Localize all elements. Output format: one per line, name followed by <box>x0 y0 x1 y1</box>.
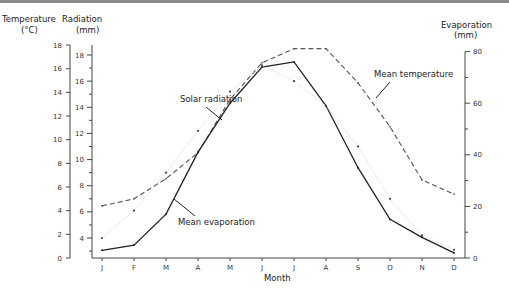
radiation-tick-label: 16 <box>75 78 84 86</box>
radiation-tick-label: 18 <box>75 52 84 60</box>
mean-temperature-point <box>101 205 103 207</box>
mean-temperature-point <box>453 193 455 195</box>
evaporation-tick-label: 0 <box>473 255 477 263</box>
x-tick-label: F <box>132 264 136 272</box>
temperature-tick-label: 14 <box>53 89 62 97</box>
climate-chart: Temperature (°C) Radiation (mm) Evaporat… <box>0 0 509 293</box>
evaporation-tick-label: 20 <box>473 203 482 211</box>
x-tick-label: O <box>387 264 393 272</box>
mean-evaporation-line <box>102 62 454 253</box>
evaporation-axis-title: Evaporation <box>441 20 492 30</box>
evaporation-axis-unit: (mm) <box>454 30 477 40</box>
mean-temperature-point <box>421 179 423 181</box>
mean-temperature-point <box>325 48 327 50</box>
temperature-axis-title: Temperature <box>1 14 56 24</box>
radiation-tick-label: 12 <box>75 130 84 138</box>
solar-radiation-point <box>389 198 391 200</box>
solar-radiation-line <box>102 66 454 250</box>
radiation-axis-title: Radiation <box>62 14 102 24</box>
mean-evaporation-point <box>165 213 167 215</box>
solar-radiation-point <box>165 172 167 174</box>
x-tick-label: A <box>324 264 329 272</box>
temperature-tick-label: 16 <box>53 65 62 73</box>
mean-evaporation-point <box>101 249 103 251</box>
x-tick-label: A <box>196 264 201 272</box>
x-tick-label: M <box>227 264 233 272</box>
x-tick-label: J <box>292 264 295 272</box>
mean-temperature-point <box>293 48 295 50</box>
mean-temperature-point <box>357 82 359 84</box>
evaporation-tick-label: 60 <box>473 100 482 108</box>
solar-radiation-point <box>453 249 455 251</box>
temperature-tick-label: 12 <box>53 113 62 121</box>
solar-radiation-point <box>197 130 199 132</box>
temperature-tick-label: 10 <box>53 136 62 144</box>
radiation-tick-label: 14 <box>75 104 84 112</box>
mean-temperature-point <box>165 178 167 180</box>
x-tick-label: S <box>356 264 361 272</box>
mean-evaporation-point <box>293 61 295 63</box>
mean-evaporation-point <box>133 244 135 246</box>
radiation-tick-label: 6 <box>80 208 85 216</box>
temperature-tick-label: 4 <box>58 207 63 215</box>
mean-temperature-point <box>389 126 391 128</box>
mean-temperature-point <box>261 62 263 64</box>
x-tick-label: M <box>163 264 169 272</box>
mean-evaporation-point <box>389 218 391 220</box>
temperature-tick-label: 18 <box>53 42 62 50</box>
solar-radiation-point <box>101 237 103 239</box>
radiation-axis-unit: (mm) <box>76 25 99 35</box>
temperature-tick-label: 2 <box>58 231 62 239</box>
mean-evaporation-point <box>453 252 455 254</box>
mean-evaporation-point <box>357 167 359 169</box>
annotation-mean-evaporation: Mean evaporation <box>178 217 255 227</box>
solar-radiation-point <box>421 234 423 236</box>
x-tick-label: J <box>260 264 263 272</box>
temperature-tick-label: 6 <box>58 184 63 192</box>
evaporation-tick-label: 80 <box>473 48 482 56</box>
annotation-mean-temperature-leader <box>376 82 390 98</box>
radiation-tick-label: 4 <box>80 235 85 243</box>
mean-evaporation-point <box>197 151 199 153</box>
temperature-axis-unit: (°C) <box>21 25 38 35</box>
mean-evaporation-point <box>421 236 423 238</box>
solar-radiation-point <box>357 145 359 147</box>
mean-temperature-point <box>133 198 135 200</box>
temperature-tick-label: 0 <box>58 255 62 263</box>
annotation-mean-evaporation-leader <box>174 199 195 216</box>
radiation-tick-label: 10 <box>75 156 84 164</box>
annotation-mean-temperature: Mean temperature <box>374 69 453 79</box>
x-tick-label: D <box>451 264 456 272</box>
solar-radiation-point <box>133 209 135 211</box>
temperature-tick-label: 8 <box>58 160 62 168</box>
annotation-solar-radiation: Solar radiation <box>180 94 242 104</box>
x-axis-title: Month <box>264 273 291 283</box>
evaporation-tick-label: 40 <box>473 151 482 159</box>
solar-radiation-point <box>229 91 231 93</box>
solar-radiation-point <box>261 64 263 66</box>
x-tick-label: J <box>100 264 103 272</box>
solar-radiation-point <box>293 80 295 82</box>
x-tick-label: N <box>419 264 424 272</box>
solar-radiation-point <box>325 105 327 107</box>
radiation-tick-label: 8 <box>80 182 84 190</box>
